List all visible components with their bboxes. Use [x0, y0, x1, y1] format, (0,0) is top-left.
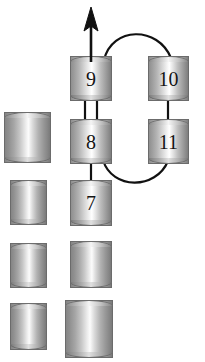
node-7-label: 7 [86, 193, 96, 213]
blank-cylinder-f[interactable] [65, 300, 113, 358]
node-10[interactable]: 10 [148, 56, 189, 101]
blank-cylinder-c[interactable] [10, 243, 47, 288]
node-7[interactable]: 7 [70, 180, 112, 226]
node-11[interactable]: 11 [148, 119, 189, 164]
blank-cylinder-e[interactable] [10, 303, 47, 350]
node-9-label: 9 [86, 69, 96, 89]
node-8[interactable]: 8 [70, 119, 112, 164]
diagram-canvas: 9 10 8 11 7 [0, 0, 205, 362]
node-9[interactable]: 9 [70, 56, 112, 101]
node-11-label: 11 [159, 132, 178, 152]
blank-cylinder-d[interactable] [70, 241, 112, 288]
node-10-label: 10 [159, 69, 179, 89]
blank-cylinder-b[interactable] [10, 180, 47, 225]
growth-arrow-up-icon [84, 7, 98, 62]
node-8-label: 8 [86, 132, 96, 152]
blank-cylinder-a[interactable] [4, 112, 51, 163]
